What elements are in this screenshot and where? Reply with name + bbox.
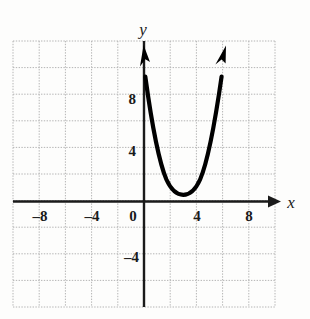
graph-figure: –8 –4 0 4 8 8 4 –4 y x: [0, 0, 310, 319]
x-axis-label: x: [286, 193, 295, 212]
paper-background: [0, 0, 310, 319]
x-tick-label-4: 4: [193, 208, 201, 224]
y-tick-label-8: 8: [129, 91, 137, 107]
coordinate-plane-svg: –8 –4 0 4 8 8 4 –4 y x: [0, 0, 310, 319]
y-tick-label-neg4: –4: [123, 249, 140, 265]
y-axis-label: y: [137, 20, 147, 39]
x-tick-label-zero: 0: [129, 208, 137, 224]
x-tick-label-neg4: –4: [84, 208, 101, 224]
x-tick-label-neg8: –8: [32, 208, 48, 224]
x-tick-label-8: 8: [245, 208, 253, 224]
y-tick-label-4: 4: [129, 143, 137, 159]
